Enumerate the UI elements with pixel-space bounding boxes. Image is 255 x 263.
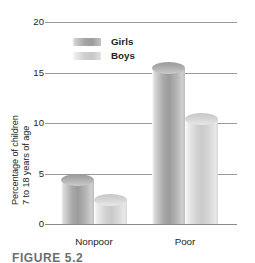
bar-nonpoor-girls — [61, 174, 94, 225]
legend-swatch-boys-icon — [72, 52, 101, 60]
legend-label-boys: Boys — [111, 50, 135, 61]
legend: Girls Boys — [72, 36, 135, 64]
gridline-15 — [45, 73, 237, 74]
y-tick-label-5: 5 — [26, 168, 44, 179]
bar-body — [61, 180, 94, 225]
y-tick-label-20: 20 — [26, 16, 44, 27]
y-tick-label-15: 15 — [26, 67, 44, 78]
figure-caption: FIGURE 5.2 — [12, 251, 83, 263]
bar-nonpoor-boys — [94, 194, 127, 224]
y-tick-label-10: 10 — [26, 117, 44, 128]
legend-label-girls: Girls — [111, 36, 133, 47]
bar-top-ellipse — [94, 194, 127, 206]
x-tick-label-nonpoor: Nonpoor — [54, 236, 134, 247]
y-tick-label-0: 0 — [26, 218, 44, 229]
legend-swatch-girls-icon — [72, 38, 101, 46]
gridline-20 — [45, 22, 237, 23]
figure-root: Percentage of children 7 to 18 years of … — [0, 0, 255, 263]
x-tick-label-poor: Poor — [145, 236, 225, 247]
y-axis-title-line-1: Percentage of children — [10, 115, 20, 205]
bar-body — [185, 119, 218, 224]
gridline-0 — [45, 224, 237, 225]
legend-item-girls: Girls — [72, 36, 135, 47]
bar-top-ellipse — [61, 174, 94, 186]
bar-poor-boys — [185, 113, 218, 224]
legend-item-boys: Boys — [72, 50, 135, 61]
bar-body — [152, 68, 185, 224]
y-axis-tick-labels: 05101520 — [22, 22, 44, 224]
bar-poor-girls — [152, 62, 185, 224]
bar-top-ellipse — [185, 113, 218, 125]
